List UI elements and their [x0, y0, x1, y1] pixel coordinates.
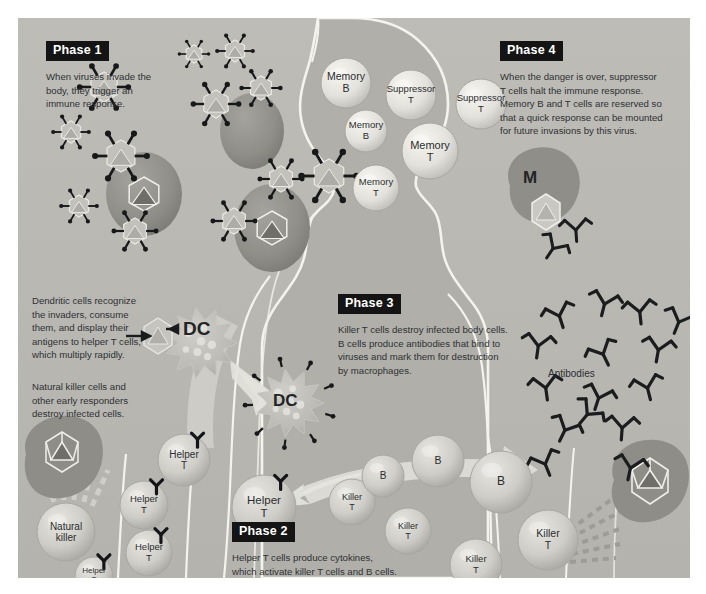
diagram-canvas: Memory BMemory BMemory TMemory TSuppress… — [18, 18, 690, 578]
pointer-layer — [18, 18, 690, 578]
dc-pointer-arrows — [126, 325, 178, 340]
infographic-stage: Memory BMemory BMemory TMemory TSuppress… — [0, 0, 706, 594]
